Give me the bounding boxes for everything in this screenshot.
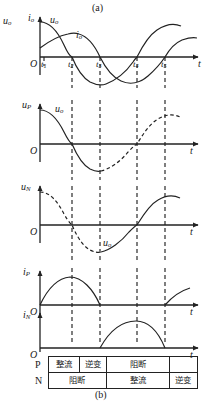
row-head-n: N <box>34 373 49 389</box>
cell-p-empty[interactable] <box>170 357 198 373</box>
origin-label-panel3: O <box>30 227 37 237</box>
caption-a: (a) <box>92 2 103 13</box>
curve-label-up-uo: uo <box>55 104 63 115</box>
axis-label-un: uN <box>21 182 31 193</box>
panel-in <box>40 313 198 352</box>
tick-label-t4: t4 <box>133 60 139 69</box>
tick-label-t5: t5 <box>161 60 167 69</box>
cell-n-block[interactable]: 阻断 <box>49 373 107 389</box>
caption-b: (b) <box>95 389 107 400</box>
curve-label-un-uo: uo <box>103 238 111 249</box>
axis-label-in: iN <box>23 310 30 321</box>
axis-t-panel2: t <box>190 146 193 156</box>
axis-t-panel1: t <box>198 59 201 69</box>
axis-label-ip: iP <box>23 267 30 278</box>
origin-label-panel4: O <box>30 307 37 317</box>
panel-up <box>40 104 198 171</box>
axis-t-panel3: t <box>190 227 193 237</box>
table-row-n: N 阻断 整流 逆变 <box>34 373 198 389</box>
origin-label-panel2: O <box>30 146 37 156</box>
origin-label-panel1: O <box>30 59 37 69</box>
curve-label-uo: uo <box>50 15 58 26</box>
tick-label-t1: t1 <box>41 60 47 69</box>
table-row-p: P 整流 逆变 阻断 <box>34 357 198 373</box>
axis-t-panel4: t <box>190 307 193 317</box>
axis-label-io: io <box>28 13 34 24</box>
tick-label-t3: t3 <box>96 60 102 69</box>
tick-label-t2: t2 <box>68 60 74 69</box>
axis-label-up: uP <box>22 100 31 111</box>
panel-un <box>40 186 198 252</box>
axis-label-uo-left: uo <box>3 16 11 27</box>
cell-p-invert[interactable]: 逆变 <box>80 357 107 373</box>
time-gridlines <box>44 57 165 342</box>
row-head-p: P <box>34 357 49 373</box>
curve-label-io: io <box>76 30 82 41</box>
panel-ip <box>40 271 198 318</box>
cell-p-rectify[interactable]: 整流 <box>49 357 80 373</box>
cell-n-rectify[interactable]: 整流 <box>107 373 170 389</box>
converter-mode-table: P 整流 逆变 阻断 N 阻断 整流 逆变 <box>34 356 198 389</box>
panel-output <box>40 17 198 85</box>
cell-p-block[interactable]: 阻断 <box>107 357 170 373</box>
cell-n-invert[interactable]: 逆变 <box>170 373 198 389</box>
